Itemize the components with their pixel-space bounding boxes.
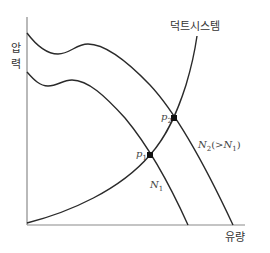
y-axis-label-1: 압 [11, 43, 21, 54]
x-axis-label: 유량 [225, 232, 245, 243]
y-axis-label-2: 력 [11, 59, 21, 70]
point-label-p1: p1 [136, 149, 147, 162]
curve-label-n1: N1 [150, 180, 163, 193]
curve-label-n2: N2(>N1) [198, 140, 241, 153]
operating-point-p1 [147, 152, 153, 158]
fan-curve-n1 [27, 72, 188, 225]
duct-system-curve [27, 36, 197, 223]
fan-curve-n2 [27, 33, 233, 225]
diagram-canvas [0, 0, 270, 253]
operating-point-p2 [171, 115, 177, 121]
duct-system-label: 덕트시스템 [170, 21, 220, 32]
point-label-p2: p2 [161, 112, 172, 125]
